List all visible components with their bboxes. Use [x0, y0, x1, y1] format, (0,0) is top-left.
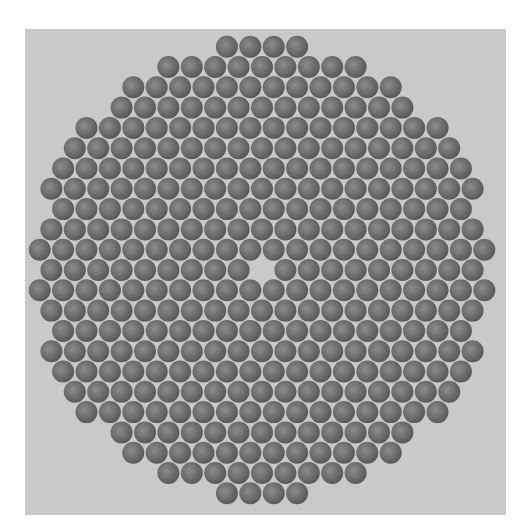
fiber: [216, 320, 238, 342]
fiber: [298, 421, 320, 443]
fiber: [298, 381, 320, 403]
fiber: [427, 117, 449, 139]
fiber: [193, 76, 215, 98]
fiber: [333, 198, 355, 220]
fiber: [415, 259, 437, 281]
fiber: [251, 97, 273, 119]
fiber: [239, 279, 261, 301]
fiber: [216, 239, 238, 261]
fiber: [251, 421, 273, 443]
fiber: [169, 76, 191, 98]
fiber: [310, 158, 332, 180]
fiber: [99, 117, 121, 139]
fiber: [403, 239, 425, 261]
fiber: [263, 198, 285, 220]
fiber: [122, 158, 144, 180]
fiber: [181, 300, 203, 322]
fiber: [298, 340, 320, 362]
fiber: [368, 218, 390, 240]
fiber: [391, 421, 413, 443]
fiber: [438, 381, 460, 403]
fiber: [239, 320, 261, 342]
fiber: [415, 300, 437, 322]
fiber: [345, 340, 367, 362]
fiber: [380, 401, 402, 423]
fiber: [380, 158, 402, 180]
fiber: [40, 218, 62, 240]
fiber: [286, 442, 308, 464]
fiber: [87, 218, 109, 240]
fiber: [239, 36, 261, 58]
fiber: [216, 158, 238, 180]
fiber: [29, 279, 51, 301]
fiber: [111, 218, 133, 240]
fiber: [263, 239, 285, 261]
fiber: [193, 158, 215, 180]
fiber: [380, 361, 402, 383]
fiber: [228, 421, 250, 443]
fiber: [181, 97, 203, 119]
fiber: [169, 198, 191, 220]
fiber: [111, 421, 133, 443]
fiber: [427, 158, 449, 180]
fiber: [87, 178, 109, 200]
fiber: [216, 401, 238, 423]
fiber: [380, 442, 402, 464]
fiber: [263, 117, 285, 139]
fiber: [345, 56, 367, 78]
fiber: [333, 401, 355, 423]
fiber: [169, 361, 191, 383]
fiber: [438, 218, 460, 240]
fiber: [415, 178, 437, 200]
fiber: [345, 178, 367, 200]
fiber: [122, 320, 144, 342]
fiber: [333, 158, 355, 180]
fiber: [76, 320, 98, 342]
fiber: [87, 381, 109, 403]
fiber: [333, 442, 355, 464]
fiber: [321, 56, 343, 78]
fiber: [204, 421, 226, 443]
fiber: [169, 117, 191, 139]
fiber: [321, 421, 343, 443]
fiber: [403, 198, 425, 220]
fiber: [345, 97, 367, 119]
fiber: [146, 320, 168, 342]
fiber: [204, 137, 226, 159]
fiber: [263, 320, 285, 342]
fiber: [298, 259, 320, 281]
fiber: [438, 300, 460, 322]
fiber: [134, 259, 156, 281]
fiber: [263, 279, 285, 301]
fiber: [345, 421, 367, 443]
fiber: [427, 198, 449, 220]
fiber: [111, 97, 133, 119]
fiber: [52, 361, 74, 383]
fiber: [76, 158, 98, 180]
fiber: [333, 361, 355, 383]
fiber: [228, 300, 250, 322]
fiber: [146, 76, 168, 98]
fiber: [52, 198, 74, 220]
fiber: [286, 401, 308, 423]
fiber: [40, 259, 62, 281]
fiber: [286, 36, 308, 58]
fiber-bundle: [0, 0, 520, 532]
fiber: [403, 320, 425, 342]
fiber: [76, 361, 98, 383]
fiber: [193, 442, 215, 464]
fiber: [403, 117, 425, 139]
fiber: [122, 198, 144, 220]
fiber: [40, 340, 62, 362]
fiber: [298, 137, 320, 159]
fiber: [450, 320, 472, 342]
fiber: [298, 97, 320, 119]
fiber: [274, 178, 296, 200]
fiber: [310, 279, 332, 301]
fiber: [157, 178, 179, 200]
fiber: [122, 279, 144, 301]
fiber: [391, 97, 413, 119]
fiber: [310, 76, 332, 98]
fiber: [450, 158, 472, 180]
fiber: [157, 218, 179, 240]
